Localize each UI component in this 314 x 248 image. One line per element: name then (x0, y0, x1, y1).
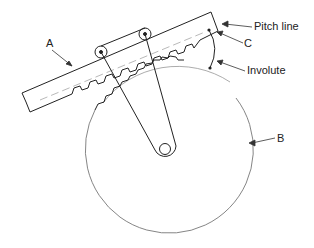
leader-lines (52, 21, 275, 146)
label-involute: Involute (247, 65, 286, 76)
pivot-hole-icon (160, 144, 171, 155)
gear-teeth (95, 56, 184, 110)
label-c: C (244, 38, 252, 49)
involute-curve (209, 30, 215, 68)
label-pitch-line: Pitch line (254, 21, 299, 32)
gear-b-circle (85, 66, 253, 233)
rack-and-pinion-diagram: A Pitch line C Involute B (0, 0, 314, 248)
linkage-arm (95, 28, 176, 156)
rack-a (22, 12, 218, 112)
label-b: B (277, 133, 284, 144)
label-a: A (46, 38, 53, 49)
